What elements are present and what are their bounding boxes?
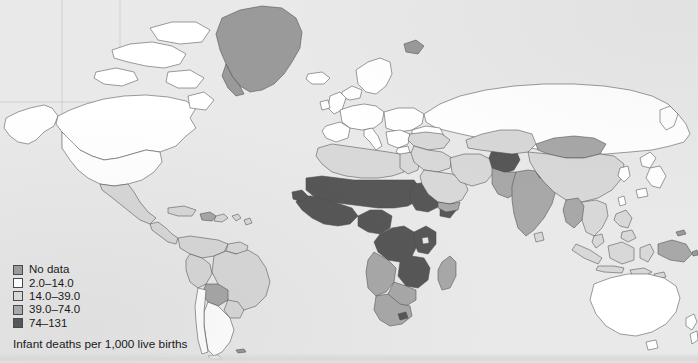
map-legend: No data 2.0–14.0 14.0–39.0 39.0–74.0 74–… bbox=[13, 263, 228, 351]
legend-swatch-band-3 bbox=[13, 305, 23, 315]
legend-caption: Infant deaths per 1,000 live births bbox=[13, 337, 228, 351]
world-map-figure: .ln { fill: none; stroke: #555; stroke-w… bbox=[0, 0, 698, 363]
legend-label-band-2: 14.0–39.0 bbox=[29, 290, 80, 303]
legend-label-band-4: 74–131 bbox=[29, 317, 67, 330]
legend-item-band-3: 39.0–74.0 bbox=[13, 303, 228, 316]
legend-swatch-band-1 bbox=[13, 278, 23, 288]
legend-item-no-data: No data bbox=[13, 263, 228, 276]
legend-swatch-band-2 bbox=[13, 291, 23, 301]
legend-label-band-3: 39.0–74.0 bbox=[29, 303, 80, 316]
legend-swatch-no-data bbox=[13, 265, 23, 275]
legend-label-band-1: 2.0–14.0 bbox=[29, 277, 74, 290]
legend-swatch-band-4 bbox=[13, 318, 23, 328]
legend-item-band-1: 2.0–14.0 bbox=[13, 276, 228, 289]
legend-item-band-2: 14.0–39.0 bbox=[13, 290, 228, 303]
legend-item-band-4: 74–131 bbox=[13, 317, 228, 330]
legend-label-no-data: No data bbox=[29, 263, 69, 276]
